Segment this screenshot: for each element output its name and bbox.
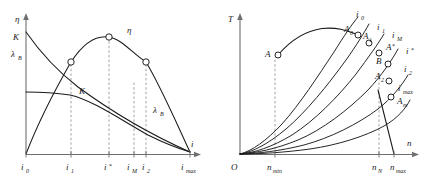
left-chart-svg: η K λ B i η K λ B i 0 i bbox=[0, 0, 218, 177]
left-xtick-labels: i 0 i 1 i * i M i 2 bbox=[21, 162, 196, 174]
xtick-label-istar: i * bbox=[104, 162, 112, 172]
xtick-label-imax: i max bbox=[181, 162, 196, 174]
xtick-nmin-glyph: n bbox=[267, 162, 272, 172]
right-markers bbox=[275, 32, 394, 100]
curve-label-iM: i M bbox=[392, 30, 403, 42]
curve-label-imax: i max bbox=[398, 83, 413, 95]
annotation-lambda-b: λ B bbox=[152, 105, 164, 117]
left-x-arrowhead bbox=[194, 152, 201, 158]
curve-lambda-b bbox=[26, 92, 190, 152]
left-ylabel-lambda-glyph: λ bbox=[10, 49, 15, 59]
marker-Am bbox=[388, 94, 394, 100]
curve-label-i2-sub: 2 bbox=[409, 70, 412, 76]
right-droplines bbox=[275, 57, 379, 154]
curve-eta bbox=[26, 37, 190, 154]
curve-K bbox=[26, 32, 190, 152]
point-label-Astar: A * bbox=[385, 42, 395, 52]
xtick-imax-sub: max bbox=[186, 168, 196, 174]
point-label-A: A bbox=[264, 49, 271, 59]
curve-label-istar-sup: * bbox=[411, 47, 414, 53]
xtick-istar-glyph: i bbox=[104, 162, 107, 172]
left-droplines bbox=[71, 39, 146, 154]
marker-A0 bbox=[355, 32, 361, 38]
right-xtick-labels: n min n N n max bbox=[267, 162, 406, 174]
xtick-label-nN: n N bbox=[372, 162, 383, 174]
xtick-imax-glyph: i bbox=[181, 162, 184, 172]
curve-label-i1-sub: 1 bbox=[382, 28, 385, 34]
point-label-Astar-sup: * bbox=[392, 43, 395, 49]
left-chart-panel: η K λ B i η K λ B i 0 i bbox=[0, 0, 218, 177]
xtick-i2-glyph: i bbox=[142, 162, 145, 172]
xtick-label-i0: i 0 bbox=[21, 162, 29, 174]
left-ylabel-K: K bbox=[12, 32, 20, 42]
curve-label-iM-glyph: i bbox=[392, 30, 395, 40]
left-axes bbox=[23, 13, 201, 157]
point-label-B: B bbox=[376, 56, 382, 66]
xtick-iM-sub: M bbox=[131, 168, 138, 174]
curve-label-i2: i 2 bbox=[404, 64, 412, 76]
xtick-i1-sub: 1 bbox=[71, 168, 74, 174]
xtick-nmax-sub: max bbox=[396, 168, 406, 174]
right-y-axis-label: T bbox=[228, 14, 234, 24]
annotation-lambda-sub: B bbox=[160, 111, 164, 117]
xtick-i1-glyph: i bbox=[66, 162, 69, 172]
point-label-Astar-glyph: A bbox=[385, 42, 392, 52]
right-origin-label: O bbox=[231, 162, 238, 172]
marker-B bbox=[385, 61, 391, 67]
point-label-A1: A 1 bbox=[362, 31, 372, 43]
right-chart-svg: T n O i 0 i 1 i M i * bbox=[218, 0, 436, 177]
figure-container: η K λ B i η K λ B i 0 i bbox=[0, 0, 436, 177]
right-x-axis-label: n bbox=[407, 138, 412, 148]
xtick-iM-glyph: i bbox=[127, 162, 130, 172]
point-label-Am-sub: m bbox=[403, 102, 408, 108]
curve-label-istar-glyph: i bbox=[406, 46, 409, 56]
point-label-Am-glyph: A bbox=[396, 96, 403, 106]
marker-i2 bbox=[143, 59, 149, 65]
curve-label-i2-glyph: i bbox=[404, 64, 407, 74]
curve-label-imax-sub: max bbox=[403, 89, 413, 95]
xtick-i0-glyph: i bbox=[21, 162, 24, 172]
xtick-nN-glyph: n bbox=[372, 162, 377, 172]
xtick-label-i2: i 2 bbox=[142, 162, 150, 174]
left-ylabel-lambda-b: λ B bbox=[10, 49, 22, 61]
marker-istar bbox=[106, 34, 112, 40]
curve-label-i1: i 1 bbox=[377, 22, 385, 34]
marker-A bbox=[275, 52, 281, 58]
annotation-lambda-glyph: λ bbox=[152, 105, 157, 115]
point-label-A1-sub: 1 bbox=[369, 37, 372, 43]
point-label-Am: A m bbox=[396, 96, 408, 108]
right-x-arrowhead bbox=[412, 152, 419, 158]
curve-label-i0-glyph: i bbox=[356, 9, 359, 19]
xtick-label-nmin: n min bbox=[267, 162, 282, 174]
xtick-nmax-glyph: n bbox=[390, 162, 395, 172]
xtick-i0-sub: 0 bbox=[26, 168, 29, 174]
point-label-A2-sub: 2 bbox=[381, 77, 384, 83]
left-y-axis-label: η bbox=[15, 14, 20, 24]
right-curve-labels: i 0 i 1 i M i * i 2 bbox=[356, 9, 414, 95]
curve-label-i1-glyph: i bbox=[377, 22, 380, 32]
point-label-A0-sub: 0 bbox=[350, 30, 353, 36]
curve-i1 bbox=[240, 24, 369, 154]
xtick-label-i1: i 1 bbox=[66, 162, 74, 174]
right-chart-panel: T n O i 0 i 1 i M i * bbox=[218, 0, 436, 177]
curve-label-i0-sub: 0 bbox=[361, 15, 364, 21]
annotation-K: K bbox=[78, 86, 86, 96]
xtick-label-iM: i M bbox=[127, 162, 138, 174]
right-y-arrowhead bbox=[237, 13, 243, 20]
xtick-label-nmax: n max bbox=[390, 162, 406, 174]
xtick-istar-sup: * bbox=[109, 163, 112, 169]
curve-label-iM-sub: M bbox=[396, 36, 403, 42]
point-label-A2-glyph: A bbox=[374, 71, 381, 81]
marker-i1 bbox=[68, 59, 74, 65]
xtick-nN-sub: N bbox=[377, 168, 383, 174]
curve-label-istar: i * bbox=[406, 46, 414, 56]
curve-i0 bbox=[240, 17, 358, 154]
curve-label-imax-glyph: i bbox=[398, 83, 401, 93]
xtick-nmin-sub: min bbox=[273, 168, 282, 174]
left-y-arrowhead bbox=[23, 13, 29, 20]
xtick-i2-sub: 2 bbox=[147, 168, 150, 174]
curve-i2 bbox=[240, 75, 408, 154]
curve-istar bbox=[240, 49, 398, 154]
left-x-axis-label: i bbox=[191, 139, 194, 149]
point-label-A0-glyph: A bbox=[343, 24, 350, 34]
